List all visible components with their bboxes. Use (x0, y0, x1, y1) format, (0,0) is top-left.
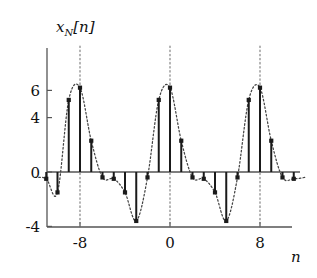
stem-marker (78, 86, 82, 90)
stem-marker (202, 177, 206, 181)
stem-marker (89, 139, 93, 143)
stem-marker (168, 86, 172, 90)
stem-marker (145, 175, 149, 179)
x-tick-label: 8 (255, 234, 265, 252)
y-tick-label: 0 (30, 164, 40, 182)
stem-marker (67, 98, 71, 102)
stem-marker (100, 175, 104, 179)
stem-marker (247, 98, 251, 102)
stem-marker (280, 175, 284, 179)
stem-marker (112, 177, 116, 181)
stem-lines-group (46, 88, 294, 221)
y-tick-label: 4 (30, 109, 40, 127)
x-axis-tick-labels: -808 (73, 234, 265, 252)
figure-container: 640-4 -808 xN[n] n n x_N[n] (0, 0, 317, 278)
y-axis-tick-labels: 640-4 (25, 82, 40, 236)
y-axis-label-bracket: [n] (73, 18, 95, 36)
axes-group (47, 48, 300, 227)
stem-marker (179, 139, 183, 143)
stem-marker (123, 190, 127, 194)
x-tick-label: 0 (165, 234, 175, 252)
stem-marker (157, 98, 161, 102)
y-tick-label: -4 (25, 218, 40, 236)
stem-marker (44, 177, 48, 181)
y-axis-ticks (47, 90, 52, 226)
stem-plot-chart: 640-4 -808 xN[n] n (0, 0, 317, 278)
x-tick-label: -8 (73, 234, 88, 252)
y-tick-label: 6 (30, 82, 40, 100)
stem-marker (134, 219, 138, 223)
stem-marker (269, 139, 273, 143)
stem-marker (55, 190, 59, 194)
stem-marker (292, 177, 296, 181)
stem-marker (224, 219, 228, 223)
stem-marker (213, 190, 217, 194)
x-axis-label: n (291, 248, 301, 266)
stem-marker (258, 86, 262, 90)
stem-marker (190, 175, 194, 179)
y-axis-label: xN[n] (56, 18, 95, 38)
stem-marker (235, 175, 239, 179)
